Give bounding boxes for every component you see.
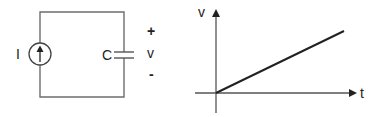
wire-bottom (40, 58, 124, 97)
figure: I C + v - v t (0, 0, 383, 117)
voltage-plus-sign: + (147, 23, 155, 39)
voltage-minus-sign: - (149, 66, 154, 82)
capacitor (114, 52, 134, 58)
capacitor-label: C (102, 47, 112, 63)
y-axis-label: v (198, 4, 205, 20)
voltage-ramp-line (216, 31, 344, 93)
circuit-diagram: I C + v - (16, 12, 155, 97)
current-source (29, 43, 51, 65)
voltage-label: v (147, 45, 154, 61)
wire-top (40, 12, 124, 52)
x-axis-label: t (360, 85, 364, 101)
source-label: I (16, 46, 20, 62)
voltage-time-graph: v t (195, 4, 364, 113)
